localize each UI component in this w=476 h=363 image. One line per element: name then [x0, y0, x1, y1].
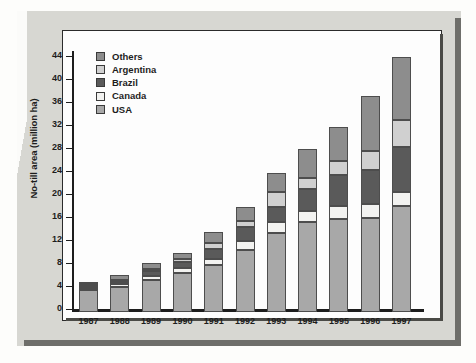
bar-segment-argentina-1990: [173, 259, 192, 262]
bar-segment-brazil-1988: [110, 282, 129, 285]
figure-root: No-till area (million ha) 04812162024283…: [0, 0, 476, 363]
bar-1995: [329, 3, 348, 312]
bar-segment-usa-1997: [392, 206, 411, 312]
bar-segment-argentina-1992: [236, 221, 255, 227]
bar-1990: [173, 3, 192, 312]
legend-item-usa[interactable]: USA: [96, 103, 156, 116]
x-tick-label-1988: 1988: [104, 316, 135, 326]
bar-segment-usa-1990: [173, 273, 192, 312]
bar-segment-canada-1996: [361, 204, 380, 218]
bar-segment-usa-1996: [361, 218, 380, 312]
legend-item-label: Brazil: [112, 78, 138, 88]
bar-segment-canada-1991: [204, 259, 223, 265]
bar-series-layer: [0, 0, 476, 312]
bar-segment-brazil-1996: [361, 170, 380, 204]
bar-segment-canada-1988: [110, 284, 129, 287]
bar-segment-argentina-1997: [392, 120, 411, 147]
x-tick-label-1992: 1992: [230, 316, 261, 326]
x-tick-label-1989: 1989: [136, 316, 167, 326]
x-tick-label-1987: 1987: [73, 316, 104, 326]
legend-swatch-icon: [96, 65, 105, 74]
chart-legend: OthersArgentinaBrazilCanadaUSA: [96, 50, 156, 116]
legend-swatch-icon: [96, 52, 105, 61]
bar-segment-others-1990: [173, 253, 192, 259]
bar-segment-others-1987: [79, 282, 98, 285]
bar-segment-others-1994: [298, 149, 317, 178]
chart-canvas: No-till area (million ha) 04812162024283…: [0, 0, 476, 363]
legend-item-canada[interactable]: Canada: [96, 90, 156, 103]
bar-segment-usa-1991: [204, 265, 223, 312]
bar-segment-others-1989: [142, 263, 161, 269]
x-tick-label-1996: 1996: [355, 316, 386, 326]
bar-segment-argentina-1988: [110, 280, 129, 282]
bar-segment-canada-1989: [142, 276, 161, 279]
bar-segment-others-1988: [110, 275, 129, 280]
legend-item-argentina[interactable]: Argentina: [96, 63, 156, 76]
legend-item-label: USA: [112, 105, 132, 115]
legend-swatch-icon: [96, 105, 105, 114]
bar-segment-others-1992: [236, 207, 255, 221]
bar-segment-usa-1987: [79, 290, 98, 312]
bar-segment-canada-1997: [392, 192, 411, 206]
bar-segment-usa-1993: [267, 233, 286, 312]
bar-segment-argentina-1993: [267, 192, 286, 206]
bar-segment-argentina-1994: [298, 178, 317, 189]
bar-segment-others-1995: [329, 127, 348, 162]
bar-segment-brazil-1989: [142, 271, 161, 276]
bar-segment-usa-1992: [236, 250, 255, 312]
bar-segment-argentina-1995: [329, 161, 348, 175]
bar-segment-canada-1992: [236, 241, 255, 250]
bar-segment-canada-1994: [298, 211, 317, 223]
bar-segment-brazil-1995: [329, 175, 348, 206]
bar-segment-brazil-1992: [236, 227, 255, 241]
x-tick-label-1995: 1995: [323, 316, 354, 326]
x-tick-label-1990: 1990: [167, 316, 198, 326]
bar-segment-others-1991: [204, 232, 223, 243]
bar-1994: [298, 3, 317, 312]
bar-segment-others-1993: [267, 173, 286, 192]
x-tick-label-1994: 1994: [292, 316, 323, 326]
legend-item-label: Canada: [112, 91, 146, 101]
bar-segment-others-1997: [392, 57, 411, 120]
bar-segment-argentina-1989: [142, 269, 161, 271]
bar-1996: [361, 3, 380, 312]
bar-segment-brazil-1990: [173, 262, 192, 268]
bar-segment-canada-1990: [173, 268, 192, 273]
legend-item-brazil[interactable]: Brazil: [96, 76, 156, 89]
x-tick-label-1991: 1991: [198, 316, 229, 326]
x-tick-label-1997: 1997: [386, 316, 417, 326]
bar-segment-usa-1989: [142, 280, 161, 312]
bar-segment-others-1996: [361, 96, 380, 151]
bar-1993: [267, 3, 286, 312]
x-tick-label-1993: 1993: [261, 316, 292, 326]
bar-segment-usa-1994: [298, 222, 317, 312]
legend-item-others[interactable]: Others: [96, 50, 156, 63]
bar-1992: [236, 3, 255, 312]
bar-segment-brazil-1994: [298, 189, 317, 211]
bar-1991: [204, 3, 223, 312]
legend-swatch-icon: [96, 92, 105, 101]
bar-segment-argentina-1987: [79, 284, 98, 286]
bar-segment-brazil-1997: [392, 147, 411, 192]
bar-segment-brazil-1991: [204, 249, 223, 259]
bar-1997: [392, 3, 411, 312]
legend-item-label: Others: [112, 52, 143, 62]
legend-item-label: Argentina: [112, 65, 156, 75]
bar-segment-canada-1987: [79, 288, 98, 290]
legend-swatch-icon: [96, 78, 105, 87]
bar-segment-canada-1995: [329, 206, 348, 219]
bar-segment-usa-1988: [110, 287, 129, 312]
bar-segment-argentina-1996: [361, 151, 380, 170]
bar-segment-usa-1995: [329, 219, 348, 312]
bar-segment-argentina-1991: [204, 243, 223, 249]
bar-segment-canada-1993: [267, 222, 286, 232]
bar-segment-brazil-1993: [267, 207, 286, 223]
